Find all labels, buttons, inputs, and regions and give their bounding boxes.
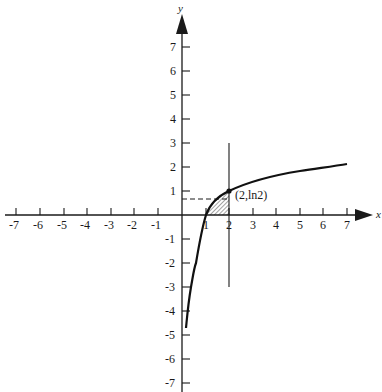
svg-text:1: 1 — [170, 184, 176, 198]
svg-text:3: 3 — [170, 136, 176, 150]
shaded-area — [206, 191, 229, 215]
svg-text:-2: -2 — [127, 218, 137, 232]
y-axis-arrow-icon — [176, 14, 188, 34]
svg-text:5: 5 — [297, 218, 303, 232]
x-axis-label: x — [375, 208, 381, 220]
svg-text:-7: -7 — [165, 376, 175, 390]
svg-text:-2: -2 — [165, 256, 175, 270]
svg-text:-6: -6 — [33, 218, 43, 232]
svg-text:-1: -1 — [165, 232, 175, 246]
svg-text:6: 6 — [320, 218, 326, 232]
y-axis-label: y — [177, 2, 183, 14]
svg-text:2: 2 — [170, 160, 176, 174]
svg-text:-5: -5 — [165, 328, 175, 342]
svg-text:-7: -7 — [9, 218, 19, 232]
svg-text:-3: -3 — [104, 218, 114, 232]
svg-text:5: 5 — [170, 88, 176, 102]
svg-text:7: 7 — [170, 40, 176, 54]
svg-text:-6: -6 — [165, 352, 175, 366]
svg-text:-3: -3 — [165, 280, 175, 294]
point-2-ln2 — [226, 188, 231, 193]
svg-text:4: 4 — [170, 112, 176, 126]
svg-text:4: 4 — [273, 218, 279, 232]
svg-text:6: 6 — [170, 64, 176, 78]
svg-text:3: 3 — [250, 218, 256, 232]
x-tick-labels: -7 -6 -5 -4 -3 -2 -1 1 2 3 4 5 6 7 — [9, 218, 350, 232]
point-label: (2,ln2) — [235, 188, 267, 202]
svg-text:-4: -4 — [80, 218, 90, 232]
svg-text:-4: -4 — [165, 304, 175, 318]
ln-graph: x y -7 -6 -5 -4 -3 -2 -1 1 2 3 4 5 6 7 — [0, 0, 382, 392]
svg-text:-1: -1 — [151, 218, 161, 232]
svg-text:-5: -5 — [57, 218, 67, 232]
x-axis-arrow-icon — [355, 209, 373, 221]
svg-text:7: 7 — [344, 218, 350, 232]
